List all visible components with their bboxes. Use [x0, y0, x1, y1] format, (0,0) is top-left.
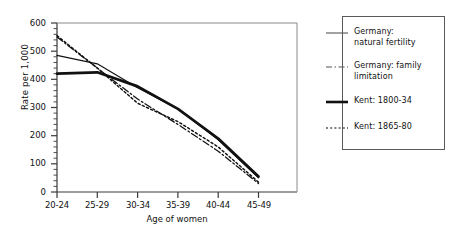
y-tick-label-500: 500	[16, 46, 46, 56]
legend-label-line1: Kent: 1800-34	[354, 96, 412, 105]
legend-item-germany-natural-fertility: Germany: natural fertility	[343, 27, 446, 48]
legend-label-kent-1800-34: Kent: 1800-34	[354, 96, 412, 107]
series-layer	[57, 36, 259, 184]
legend-label-line2: natural fertility	[354, 38, 416, 47]
legend-label-line1: Kent: 1865-80	[354, 122, 412, 131]
legend-item-germany-family-limitation: Germany: family limitation	[343, 61, 446, 82]
legend-line-dash-dot-icon	[325, 61, 349, 73]
y-tick-label-600: 600	[16, 18, 46, 28]
legend-label-germany-family-limitation: Germany: family limitation	[354, 61, 422, 82]
legend-item-kent-1865-80: Kent: 1865-80	[343, 122, 446, 134]
legend-line-solid-thin-icon	[325, 27, 349, 39]
legend-line-solid-thick-icon	[325, 96, 349, 108]
y-tick-label-400: 400	[16, 74, 46, 84]
y-tick-label-100: 100	[16, 158, 46, 168]
chart-screenshot: Rate per 1,000 600 500 400 300 200 100 0…	[0, 0, 459, 242]
legend-label-kent-1865-80: Kent: 1865-80	[354, 122, 412, 133]
x-ticks	[57, 192, 259, 198]
series-line	[57, 72, 259, 176]
y-tick-label-300: 300	[16, 102, 46, 112]
x-axis-title: Age of women	[57, 214, 297, 224]
x-tick-label-30-34: 30-34	[116, 200, 160, 210]
y-major-ticks	[51, 23, 57, 192]
legend-item-kent-1800-34: Kent: 1800-34	[343, 96, 446, 108]
x-tick-label-45-49: 45-49	[237, 200, 281, 210]
line-chart: Rate per 1,000 600 500 400 300 200 100 0…	[0, 0, 330, 242]
legend-label-line1: Germany:	[354, 27, 394, 36]
legend-label-germany-natural-fertility: Germany: natural fertility	[354, 27, 416, 48]
x-tick-label-20-24: 20-24	[35, 200, 79, 210]
chart-legend: Germany: natural fertility Germany: fami…	[342, 16, 445, 150]
legend-label-line2: limitation	[354, 72, 393, 81]
x-tick-label-40-44: 40-44	[196, 200, 240, 210]
series-line	[57, 36, 259, 182]
legend-label-line1: Germany: family	[354, 61, 422, 70]
legend-line-dotted-icon	[325, 122, 349, 134]
y-tick-label-200: 200	[16, 130, 46, 140]
y-tick-label-0: 0	[16, 187, 46, 197]
x-tick-label-35-39: 35-39	[156, 200, 200, 210]
x-tick-label-25-29: 25-29	[75, 200, 119, 210]
